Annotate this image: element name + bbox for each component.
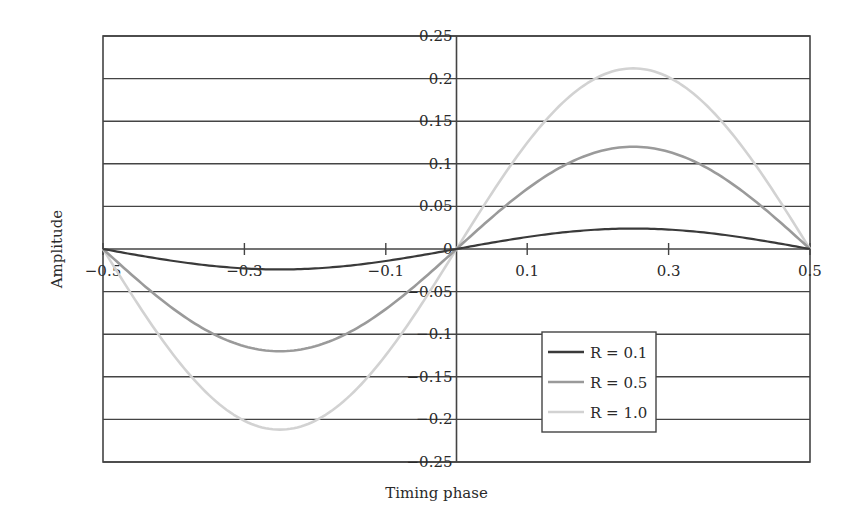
x-tick-label: −0.1 <box>368 262 404 280</box>
y-tick-label: −0.25 <box>407 453 453 471</box>
x-tick-label: 0.5 <box>798 262 822 280</box>
y-tick-label: −0.1 <box>416 325 452 343</box>
y-tick-label: 0.2 <box>429 70 453 88</box>
y-tick-label: 0.05 <box>419 197 452 215</box>
y-tick-label: −0.2 <box>416 410 452 428</box>
legend: R = 0.1 R = 0.5 R = 1.0 <box>542 332 656 432</box>
y-tick-label: 0.25 <box>419 27 452 45</box>
y-axis-title: Amplitude <box>48 210 66 290</box>
x-tick-label: 0.3 <box>657 262 681 280</box>
y-tick-label: −0.15 <box>407 368 453 386</box>
legend-label-r-0-5: R = 0.5 <box>590 374 647 392</box>
x-axis-title: Timing phase <box>385 484 488 502</box>
x-tick-label: −0.3 <box>226 262 262 280</box>
legend-label-r-1-0: R = 1.0 <box>590 404 647 422</box>
x-tick-label: 0.1 <box>515 262 539 280</box>
y-tick-label: 0.15 <box>419 112 452 130</box>
chart: 0.250.20.150.10.050−0.05−0.1−0.15−0.2−0.… <box>0 0 857 523</box>
y-tick-label: 0.1 <box>429 155 453 173</box>
legend-label-r-0-1: R = 0.1 <box>590 344 647 362</box>
